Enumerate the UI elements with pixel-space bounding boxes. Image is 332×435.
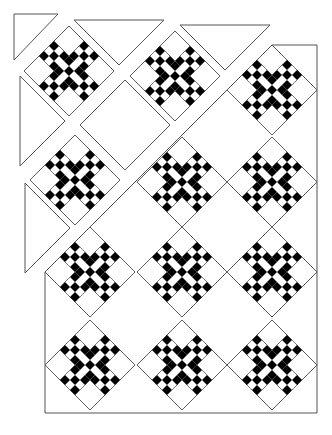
quilt-assembly-diagram [0, 0, 332, 435]
